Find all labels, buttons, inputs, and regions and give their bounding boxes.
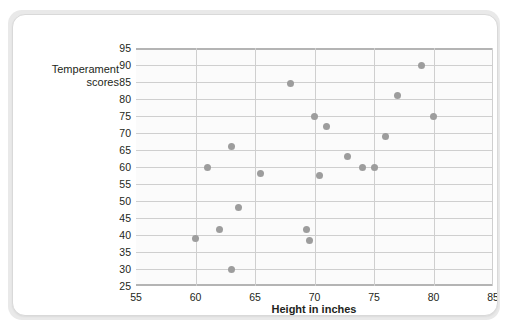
- data-point: [382, 133, 389, 140]
- y-axis-tick-label: 30: [105, 263, 131, 275]
- x-axis-tick-label: 55: [121, 291, 151, 303]
- y-axis-tick-label: 90: [105, 59, 131, 71]
- y-axis-tick-label: 80: [105, 93, 131, 105]
- scatter-plot-figure: Temperament scores 253035404550556065707…: [0, 0, 508, 328]
- x-axis-tick-label: 75: [359, 291, 389, 303]
- data-point: [303, 226, 310, 233]
- x-axis-tick-label: 70: [300, 291, 330, 303]
- data-point: [228, 143, 235, 150]
- y-axis-tick-label: 55: [105, 178, 131, 190]
- data-point: [311, 113, 318, 120]
- x-axis-tick-label: 65: [240, 291, 270, 303]
- data-point: [192, 235, 199, 242]
- data-point: [418, 62, 425, 69]
- y-axis-tick-label: 70: [105, 127, 131, 139]
- data-point: [235, 204, 242, 211]
- gridline-vertical: [315, 48, 316, 286]
- data-point: [216, 226, 223, 233]
- x-axis-tick-label: 60: [181, 291, 211, 303]
- x-axis-tick-label: 85: [478, 291, 498, 303]
- plot-area: [136, 48, 493, 286]
- y-axis-tick-label: 65: [105, 144, 131, 156]
- x-axis-title: Height in inches: [133, 303, 495, 315]
- y-axis-tick-label: 35: [105, 246, 131, 258]
- y-axis-tick-label: 75: [105, 110, 131, 122]
- y-axis-tick-label: 45: [105, 212, 131, 224]
- y-axis-tick-label: 40: [105, 229, 131, 241]
- data-point: [430, 113, 437, 120]
- data-point: [287, 80, 294, 87]
- data-point: [323, 123, 330, 130]
- gridline-vertical: [196, 48, 197, 286]
- y-axis-tick-label: 50: [105, 195, 131, 207]
- data-point: [359, 164, 366, 171]
- gridline-vertical: [434, 48, 435, 286]
- data-point: [316, 172, 323, 179]
- y-axis-tick-label: 60: [105, 161, 131, 173]
- y-axis-tick-label: 95: [105, 42, 131, 54]
- gridline-vertical: [255, 48, 256, 286]
- y-axis-tick-label: 85: [105, 76, 131, 88]
- data-point: [228, 266, 235, 273]
- data-point: [371, 164, 378, 171]
- gridline-vertical: [492, 48, 493, 286]
- data-point: [306, 237, 313, 244]
- data-point: [344, 153, 351, 160]
- chart-card: Temperament scores 253035404550556065707…: [12, 14, 498, 316]
- data-point: [257, 170, 264, 177]
- data-point: [204, 164, 211, 171]
- x-axis-tick-label: 80: [419, 291, 449, 303]
